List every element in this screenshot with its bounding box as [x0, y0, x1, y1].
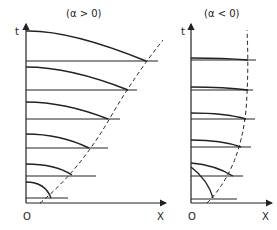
right-profiles [191, 58, 248, 198]
right-panel-title: (α < 0) [204, 9, 240, 19]
diagram: (α > 0) t O X (α < 0) t O X [0, 0, 277, 230]
diagram-svg [0, 0, 277, 230]
left-panel-title: (α > 0) [66, 9, 102, 19]
left-time-levels [26, 61, 158, 198]
right-x-label: X [262, 212, 269, 222]
right-boundary-curve [207, 30, 248, 203]
left-x-label: X [157, 212, 164, 222]
right-panel [191, 24, 272, 203]
left-boundary-curve [40, 40, 163, 203]
right-time-levels [191, 60, 256, 199]
right-t-label: t [181, 27, 185, 37]
left-profiles [26, 31, 146, 198]
left-panel [26, 24, 166, 203]
left-t-label: t [15, 27, 19, 37]
left-origin-label: O [23, 212, 31, 222]
right-origin-label: O [188, 212, 196, 222]
